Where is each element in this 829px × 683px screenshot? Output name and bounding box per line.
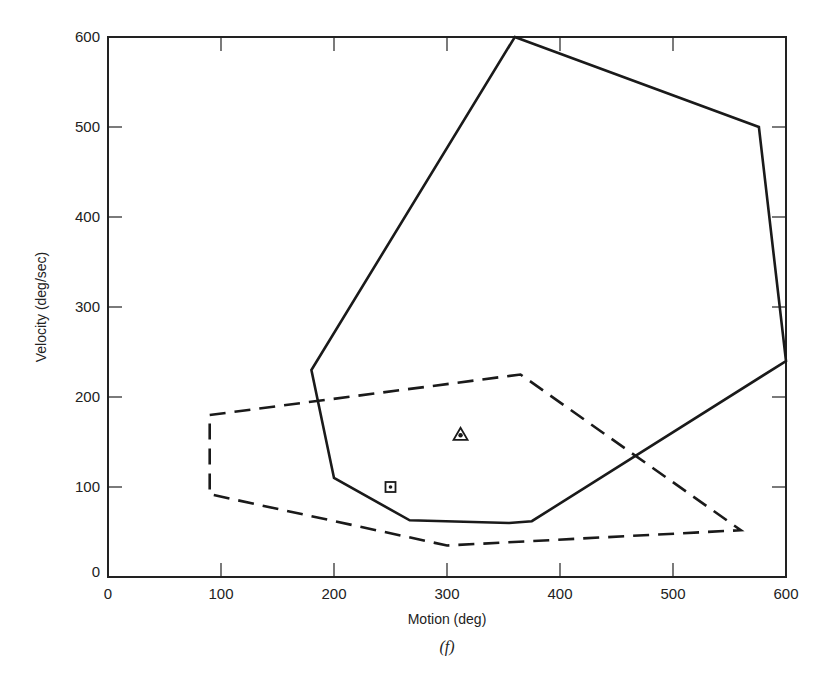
- axis-ticks: 01002003004005006000100200300400500600: [75, 28, 799, 602]
- x-tick-label: 0: [104, 585, 112, 602]
- y-tick-label: 100: [75, 478, 100, 495]
- y-tick-label: 200: [75, 388, 100, 405]
- plot-border: [108, 37, 786, 577]
- markers-group: [386, 428, 468, 492]
- plot-frame: [108, 37, 786, 577]
- solid-envelope: [311, 37, 786, 523]
- x-tick-label: 100: [208, 585, 233, 602]
- y-tick-label: 0: [92, 563, 100, 580]
- series-group: [210, 37, 786, 546]
- x-tick-label: 400: [547, 585, 572, 602]
- x-axis-title: Motion (deg): [408, 611, 487, 627]
- x-tick-label: 500: [660, 585, 685, 602]
- figure-caption: (f): [439, 638, 454, 656]
- y-tick-label: 300: [75, 298, 100, 315]
- triangle-dot-marker-dot: [458, 433, 462, 437]
- y-tick-label: 400: [75, 208, 100, 225]
- square-dot-marker-dot: [389, 485, 393, 489]
- chart: 01002003004005006000100200300400500600 M…: [0, 0, 829, 683]
- dashed-envelope: [210, 375, 741, 546]
- y-axis-title: Velocity (deg/sec): [33, 252, 49, 363]
- x-tick-label: 600: [773, 585, 798, 602]
- y-tick-label: 500: [75, 118, 100, 135]
- x-tick-label: 200: [321, 585, 346, 602]
- x-tick-label: 300: [434, 585, 459, 602]
- y-tick-label: 600: [75, 28, 100, 45]
